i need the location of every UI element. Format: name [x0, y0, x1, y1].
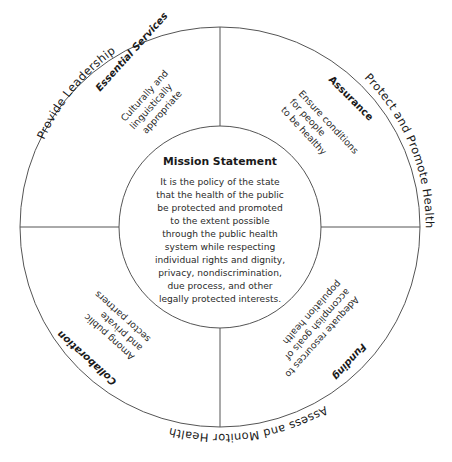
mission-line: system while respecting	[165, 242, 275, 252]
mission-line: that the health of the public	[156, 190, 284, 200]
mission-title: Mission Statement	[163, 155, 277, 168]
quadrant-title: Funding	[330, 342, 368, 383]
mission-line: through the public health	[162, 229, 277, 239]
quadrant-essential-services-body: Culturally and linguistically appropriat…	[118, 67, 188, 139]
quadrant-collaboration-body: Among public and private sector partners	[76, 289, 152, 363]
outer-label-provide-leadership: Provide Leadership	[34, 43, 118, 141]
mission-statement: Mission Statement It is the policy of th…	[155, 155, 285, 304]
mission-line: to the extent possible	[170, 216, 270, 226]
outer-label-assess-monitor-health: Assess and Monitor Health	[167, 403, 330, 445]
mission-line: It is the policy of the state	[160, 177, 280, 187]
outer-label-protect-promote-health: Protect and Promote Health	[362, 70, 437, 228]
mission-line: be protected and promoted	[157, 203, 282, 213]
mission-line: due process, and other	[168, 281, 273, 291]
mission-line: privacy, nondiscrimination,	[158, 268, 282, 278]
quadrant-funding: Funding	[330, 342, 368, 383]
mission-line: legally protected interests.	[159, 294, 281, 304]
public-health-wheel-diagram: Provide Leadership Protect and Promote H…	[0, 0, 452, 462]
mission-line: individual rights and dignity,	[155, 255, 285, 265]
